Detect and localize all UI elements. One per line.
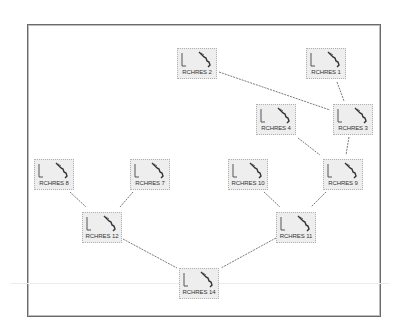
reach-label: RCHRES 9 bbox=[324, 180, 362, 186]
reach-node-rchres-3[interactable]: RCHRES 3 bbox=[333, 104, 373, 135]
reach-label: RCHRES 8 bbox=[35, 180, 73, 186]
edge-rchres-11-to-rchres-14 bbox=[221, 238, 276, 268]
reach-label: RCHRES 10 bbox=[229, 180, 267, 186]
river-reach-icon bbox=[231, 162, 267, 180]
reach-node-rchres-8[interactable]: RCHRES 8 bbox=[34, 159, 74, 190]
reach-label: RCHRES 7 bbox=[131, 180, 169, 186]
reach-label: RCHRES 14 bbox=[180, 289, 218, 295]
river-reach-icon bbox=[326, 162, 362, 180]
reach-label: RCHRES 4 bbox=[257, 125, 295, 131]
reach-label: RCHRES 3 bbox=[334, 125, 372, 131]
river-reach-icon bbox=[182, 271, 218, 289]
reach-node-rchres-10[interactable]: RCHRES 10 bbox=[228, 159, 268, 190]
river-reach-icon bbox=[259, 107, 295, 125]
reach-node-rchres-9[interactable]: RCHRES 9 bbox=[323, 159, 363, 190]
reach-node-rchres-11[interactable]: RCHRES 11 bbox=[276, 212, 316, 243]
reach-label: RCHRES 2 bbox=[178, 69, 216, 75]
reach-node-rchres-1[interactable]: RCHRES 1 bbox=[306, 48, 346, 79]
edge-rchres-9-to-rchres-11 bbox=[311, 192, 326, 207]
reach-node-rchres-4[interactable]: RCHRES 4 bbox=[256, 104, 296, 135]
edge-rchres-7-to-rchres-12 bbox=[120, 192, 133, 207]
edge-rchres-4-to-rchres-9 bbox=[298, 138, 320, 155]
edge-rchres-12-to-rchres-14 bbox=[123, 239, 177, 268]
river-reach-icon bbox=[336, 107, 372, 125]
reach-label: RCHRES 11 bbox=[277, 233, 315, 239]
reach-label: RCHRES 12 bbox=[83, 233, 121, 239]
edge-rchres-8-to-rchres-12 bbox=[70, 192, 86, 207]
reach-node-rchres-2[interactable]: RCHRES 2 bbox=[177, 48, 217, 79]
reach-label: RCHRES 1 bbox=[307, 69, 345, 75]
river-reach-icon bbox=[85, 215, 121, 233]
edge-rchres-1-to-rchres-3 bbox=[337, 82, 344, 101]
reach-node-rchres-12[interactable]: RCHRES 12 bbox=[82, 212, 122, 243]
reach-node-rchres-14[interactable]: RCHRES 14 bbox=[179, 268, 219, 299]
river-reach-icon bbox=[133, 162, 169, 180]
reach-node-rchres-7[interactable]: RCHRES 7 bbox=[130, 159, 170, 190]
edge-rchres-3-to-rchres-9 bbox=[346, 137, 349, 155]
river-reach-icon bbox=[37, 162, 73, 180]
river-reach-icon bbox=[279, 215, 315, 233]
river-reach-icon bbox=[309, 51, 345, 69]
edge-rchres-10-to-rchres-11 bbox=[264, 192, 280, 207]
river-reach-icon bbox=[180, 51, 216, 69]
